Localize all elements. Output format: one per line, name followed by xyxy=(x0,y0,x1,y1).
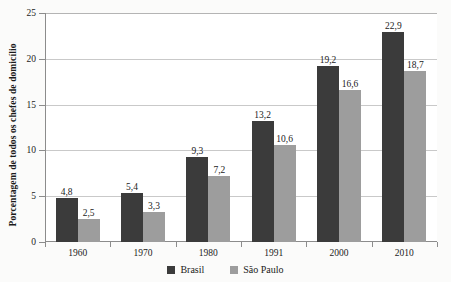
y-axis-tick-label: 5 xyxy=(6,191,36,201)
x-axis-tick xyxy=(306,242,307,247)
legend-label: São Paulo xyxy=(243,264,283,275)
bar-group: 13,210,6 xyxy=(241,13,306,242)
y-axis-title-text: Porcentagem de todos os chefes de domicí… xyxy=(8,14,18,256)
bar-groups: 4,82,55,43,39,37,213,210,619,216,622,918… xyxy=(45,13,437,242)
bar-value-label: 9,3 xyxy=(191,146,203,156)
x-axis-tick xyxy=(176,242,177,247)
x-axis-tick xyxy=(110,242,111,247)
bar: 18,7 xyxy=(404,71,426,242)
x-axis-tick xyxy=(45,242,46,247)
x-axis-tick xyxy=(241,242,242,247)
y-axis-tick-label: 20 xyxy=(6,54,36,64)
bar: 4,8 xyxy=(56,198,78,242)
bar: 3,3 xyxy=(143,212,165,242)
bar: 16,6 xyxy=(339,90,361,242)
y-axis-tick-label: 15 xyxy=(6,100,36,110)
bar: 5,4 xyxy=(121,193,143,242)
bar-value-label: 5,4 xyxy=(126,182,138,192)
x-axis-tick-label: 1980 xyxy=(199,248,218,258)
bar-group: 19,216,6 xyxy=(306,13,371,242)
y-axis-tick-label: 10 xyxy=(6,145,36,155)
bar-group: 22,918,7 xyxy=(372,13,437,242)
bar: 19,2 xyxy=(317,66,339,242)
x-axis-tick xyxy=(372,242,373,247)
x-axis-tick-label: 2010 xyxy=(395,248,414,258)
bar: 9,3 xyxy=(186,157,208,242)
bar: 10,6 xyxy=(274,145,296,242)
bar-value-label: 2,5 xyxy=(83,208,95,218)
x-axis-tick-label: 1970 xyxy=(134,248,153,258)
legend-swatch-icon xyxy=(167,266,175,274)
bar-value-label: 19,2 xyxy=(320,55,337,65)
bar-value-label: 7,2 xyxy=(213,165,225,175)
legend-label: Brasil xyxy=(180,264,204,275)
bar-value-label: 10,6 xyxy=(276,134,293,144)
bar-chart: Porcentagem de todos os chefes de domicí… xyxy=(0,0,451,282)
bar: 2,5 xyxy=(78,219,100,242)
x-axis-tick-label: 2000 xyxy=(330,248,349,258)
bar-group: 4,82,5 xyxy=(45,13,110,242)
bar-value-label: 16,6 xyxy=(342,79,359,89)
x-axis-tick-label: 1991 xyxy=(264,248,283,258)
bar-value-label: 18,7 xyxy=(407,60,424,70)
x-axis-tick-label: 1960 xyxy=(68,248,87,258)
bar-value-label: 4,8 xyxy=(61,187,73,197)
bar-group: 5,43,3 xyxy=(110,13,175,242)
bar-group: 9,37,2 xyxy=(176,13,241,242)
legend-swatch-icon xyxy=(230,266,238,274)
y-axis-tick-label: 25 xyxy=(6,8,36,18)
x-axis-tick xyxy=(437,242,438,247)
bar: 13,2 xyxy=(252,121,274,242)
legend: BrasilSão Paulo xyxy=(0,264,451,275)
bar-value-label: 13,2 xyxy=(254,110,271,120)
y-axis-tick-label: 0 xyxy=(6,237,36,247)
bar-value-label: 3,3 xyxy=(148,201,160,211)
legend-item: São Paulo xyxy=(230,264,283,275)
bar-value-label: 22,9 xyxy=(385,21,402,31)
bar: 7,2 xyxy=(208,176,230,242)
legend-item: Brasil xyxy=(167,264,204,275)
bar: 22,9 xyxy=(382,32,404,242)
